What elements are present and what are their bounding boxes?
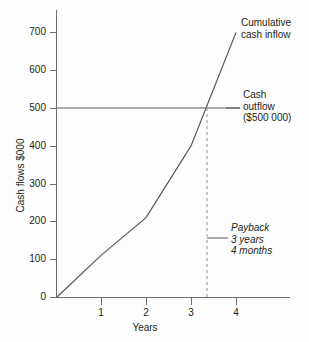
annotation-cumulative-cash-inflow: Cumulative cash inflow (241, 17, 309, 40)
payback-period-chart: 700 600 500 400 300 200 100 0 1 2 3 4 Ca… (0, 0, 309, 342)
annotation-payback: Payback 3 years 4 months (231, 222, 309, 257)
cumulative-cash-inflow-line (57, 33, 236, 298)
plot-area (0, 0, 309, 342)
annotation-cash-outflow: Cash outflow ($500 000) (243, 89, 309, 124)
